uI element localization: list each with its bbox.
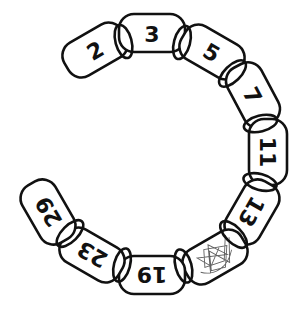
link-label: 11 <box>255 137 280 168</box>
prime-chain-diagram: 23571113192329 <box>0 0 305 310</box>
link-label: 3 <box>144 22 159 47</box>
chain-canvas: 23571113192329 <box>0 0 305 310</box>
link-label: 19 <box>137 262 168 287</box>
